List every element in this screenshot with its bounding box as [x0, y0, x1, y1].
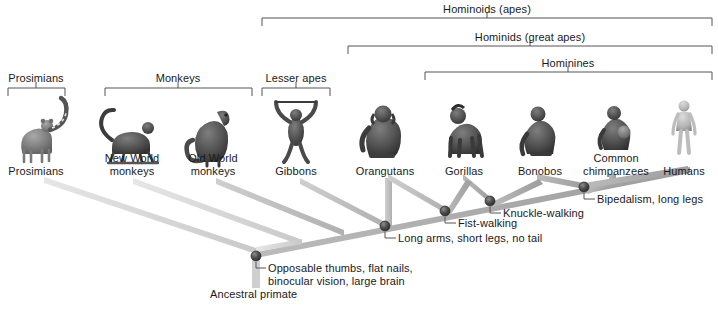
group-label-monkeys: Monkeys: [156, 72, 201, 85]
annotation-knuckle-walking: Knuckle-walking: [503, 207, 584, 220]
annotation-opposable-thumbs-line2: binocular vision, large brain: [268, 275, 405, 288]
taxon-label-orangutans: Orangutans: [356, 165, 414, 178]
taxon-label-common-chimpanzees-line1: Common: [593, 152, 638, 165]
group-label-hominines: Hominines: [542, 57, 595, 70]
taxon-label-new-world-monkeys-line2: monkeys: [110, 165, 155, 178]
gibbon-silhouette: [276, 102, 316, 162]
annotation-long-arms-short-legs: Long arms, short legs, no tail: [398, 232, 542, 245]
group-label-prosimians: Prosimians: [8, 72, 63, 85]
taxon-label-old-world-monkeys-line1: Old World: [188, 152, 238, 165]
human-silhouette: [673, 101, 695, 154]
group-label-lesser-apes: Lesser apes: [265, 72, 326, 85]
lemur-silhouette: [21, 98, 66, 162]
primate-phylogeny-figure: Prosimians Monkeys Lesser apes Hominoids…: [0, 0, 718, 311]
gorilla-silhouette: [449, 105, 482, 156]
taxon-label-humans: Humans: [663, 165, 705, 178]
taxon-label-gorillas: Gorillas: [445, 165, 483, 178]
orangutan-silhouette: [362, 106, 401, 157]
annotation-opposable-thumbs-line1: Opposable thumbs, flat nails,: [268, 262, 413, 275]
bonobo-silhouette: [522, 107, 556, 155]
chimpanzee-silhouette: [600, 106, 631, 150]
annotation-bipedalism-long-legs: Bipedalism, long legs: [597, 193, 703, 206]
root-label-ancestral-primate: Ancestral primate: [210, 288, 297, 301]
taxon-label-new-world-monkeys-line1: New World: [105, 152, 160, 165]
taxon-label-prosimians: Prosimians: [8, 165, 63, 178]
taxon-label-bonobos: Bonobos: [518, 165, 562, 178]
taxon-label-common-chimpanzees-line2: chimpanzees: [583, 165, 649, 178]
taxon-label-gibbons: Gibbons: [275, 165, 317, 178]
group-label-hominoids: Hominoids (apes): [443, 3, 531, 16]
taxon-label-old-world-monkeys-line2: monkeys: [191, 165, 236, 178]
group-label-hominids: Hominids (great apes): [475, 31, 585, 44]
